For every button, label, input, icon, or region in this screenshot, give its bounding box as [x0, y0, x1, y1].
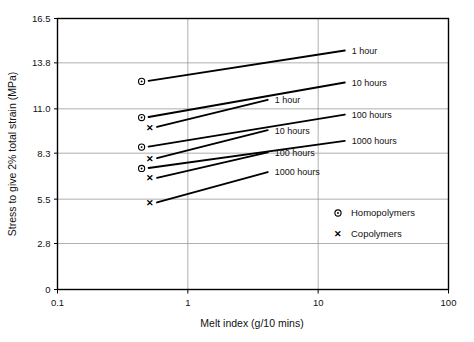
series-label: 10 hours: [352, 78, 388, 88]
x-tick-label: 10: [313, 297, 324, 308]
y-tick-label: 16.5: [32, 13, 51, 24]
series-label: 1 hour: [275, 95, 301, 105]
legend-label: Copolymers: [351, 228, 402, 239]
series-label: 1000 hours: [275, 167, 321, 177]
x-tick-label: 0.1: [51, 297, 64, 308]
x-tick-label: 1: [185, 297, 190, 308]
cross-marker: ✕: [146, 154, 154, 164]
chart-container: 02.85.58.311.013.816.5 0.1110100 ✕✕✕✕ 1 …: [0, 0, 474, 342]
series-label: 100 hours: [352, 110, 393, 120]
legend-cross-icon: ✕: [334, 229, 342, 239]
y-axis-title: Stress to give 2% total strain (MPa): [6, 72, 18, 237]
y-tick-label: 5.5: [37, 194, 50, 205]
x-axis-title: Melt index (g/10 mins): [200, 317, 303, 329]
stress-vs-melt-index-chart: 02.85.58.311.013.816.5 0.1110100 ✕✕✕✕ 1 …: [0, 0, 474, 342]
y-tick-label: 8.3: [37, 148, 50, 159]
chart-background: [0, 0, 474, 342]
series-label: 10 hours: [275, 126, 311, 136]
y-tick-label: 2.8: [37, 238, 50, 249]
cross-marker: ✕: [146, 123, 154, 133]
series-label: 1 hour: [352, 46, 378, 56]
legend-label: Homopolymers: [351, 207, 415, 218]
x-tick-label: 100: [441, 297, 457, 308]
series-label: 100 hours: [275, 148, 316, 158]
y-tick-label: 13.8: [32, 57, 51, 68]
y-tick-label: 11.0: [33, 103, 51, 114]
series-label: 1000 hours: [352, 136, 398, 146]
y-tick-label: 0: [45, 284, 50, 295]
cross-marker: ✕: [146, 173, 154, 183]
cross-marker: ✕: [146, 198, 154, 208]
